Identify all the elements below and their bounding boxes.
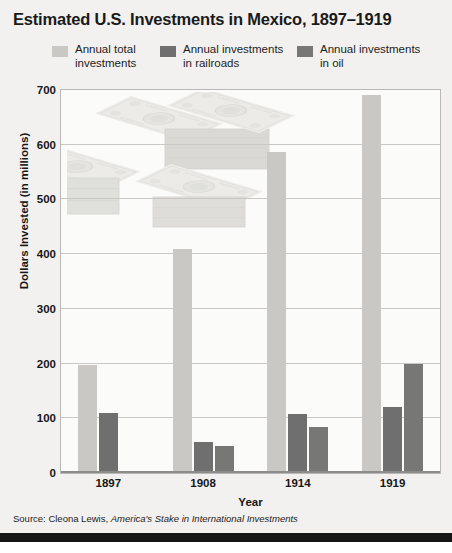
y-tick-label: 0 [4,467,56,479]
y-tick-label: 500 [4,193,56,205]
legend-item-railroads: Annual investments in railroads [160,43,297,70]
x-axis-line [61,471,440,473]
bar-railroads-1908 [194,442,213,473]
source-note: Source: Cleona Lewis, America's Stake in… [13,513,298,524]
chart-legend: Annual total investmentsAnnual investmen… [52,43,448,77]
y-tick-label: 600 [4,139,56,151]
page-title: Estimated U.S. Investments in Mexico, 18… [13,9,433,29]
x-tick-label: 1914 [285,477,311,489]
y-axis-title: Dollars Invested (in millions) [18,101,30,321]
source-prefix: Source: Cleona Lewis, [13,513,111,524]
bar-total-1919 [362,95,381,473]
legend-label-total: Annual total investments [75,43,136,70]
bar-oil-1919 [404,364,423,473]
legend-item-total: Annual total investments [52,43,160,70]
bar-total-1914 [267,152,286,473]
bar-group-1914 [267,90,328,473]
x-tick-label: 1919 [380,477,406,489]
bar-railroads-1914 [288,414,307,473]
bar-total-1908 [173,249,192,473]
source-book-title: America's Stake in International Investm… [111,513,298,524]
x-axis-title: Year [60,496,441,508]
bar-group-1908 [173,90,234,473]
bar-group-1919 [362,90,423,473]
legend-swatch-total [52,46,68,57]
bottom-rule [0,533,452,542]
x-tick-label: 1897 [96,477,122,489]
x-axis-ticks: 1897190819141919 [60,477,441,493]
y-tick-label: 200 [4,358,56,370]
bar-oil-1914 [309,427,328,474]
bars-layer [61,90,440,473]
y-tick-label: 300 [4,303,56,315]
y-tick-label: 100 [4,412,56,424]
bar-total-1897 [78,365,97,473]
legend-swatch-oil [297,46,313,57]
legend-label-railroads: Annual investments in railroads [183,43,283,70]
bar-oil-1908 [215,446,234,473]
bottom-strip [0,542,452,553]
bar-railroads-1919 [383,407,402,473]
legend-label-oil: Annual investments in oil [320,43,420,70]
chart-page: Estimated U.S. Investments in Mexico, 18… [0,0,452,553]
legend-swatch-railroads [160,46,176,57]
bar-group-1897 [78,90,139,473]
legend-item-oil: Annual investments in oil [297,43,437,70]
x-tick-label: 1908 [190,477,216,489]
y-tick-label: 400 [4,248,56,260]
bar-railroads-1897 [99,413,118,473]
y-tick-label: 700 [4,84,56,96]
plot-area [60,89,441,474]
